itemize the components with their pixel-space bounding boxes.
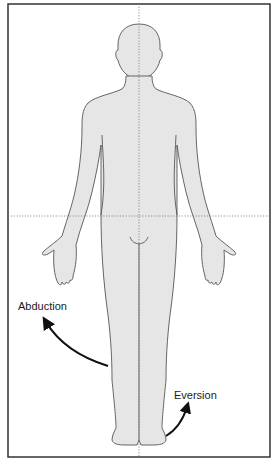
anatomy-diagram (0, 0, 277, 468)
abduction-label: Abduction (18, 300, 67, 312)
eversion-label: Eversion (174, 389, 217, 401)
